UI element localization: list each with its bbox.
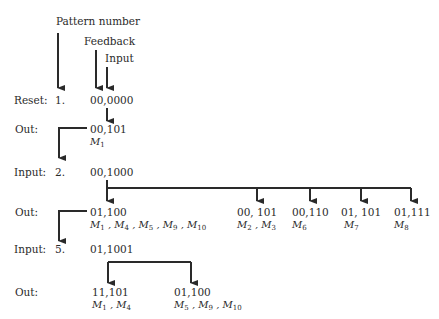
reset-value: 00,0000 — [90, 94, 133, 106]
feedback-header: Feedback — [84, 35, 135, 47]
diagram-arrows — [0, 0, 439, 319]
out2d-value: 01, 101 — [341, 206, 381, 218]
out2a-value: 01,100 — [90, 206, 127, 218]
out3a-value: 11,101 — [92, 286, 129, 298]
out3b-members: M5 , M9 , M10 — [174, 299, 242, 314]
out3a-members: M1 , M4 — [92, 299, 131, 314]
out2e-value: 01,111 — [394, 206, 431, 218]
out2c-value: 00,110 — [292, 206, 329, 218]
input-header: Input — [105, 52, 134, 64]
out2b-members: M2 , M3 — [237, 219, 276, 234]
input-label-2: Input: — [14, 166, 46, 178]
input5-value: 01,1001 — [90, 243, 133, 255]
pattern-1: 1. — [55, 94, 65, 106]
pattern-2: 2. — [55, 166, 65, 178]
out3b-value: 01,100 — [174, 286, 211, 298]
pattern-number-header: Pattern number — [56, 15, 140, 27]
out-label-3: Out: — [15, 286, 38, 298]
out1-members: M1 — [90, 136, 105, 151]
out2c-members: M6 — [292, 219, 307, 234]
out-label-2: Out: — [15, 206, 38, 218]
input2-value: 00,1000 — [90, 166, 133, 178]
out2e-members: M8 — [394, 219, 409, 234]
out2a-members: M1 , M4 , M5 , M9 , M10 — [90, 219, 206, 234]
input-label-5: Input: — [14, 243, 46, 255]
pattern-5: 5. — [55, 243, 65, 255]
out2d-members: M7 — [344, 219, 359, 234]
reset-label: Reset: — [14, 94, 47, 106]
out2b-value: 00, 101 — [237, 206, 277, 218]
out-label-1: Out: — [15, 123, 38, 135]
out1-value: 00,101 — [90, 123, 127, 135]
